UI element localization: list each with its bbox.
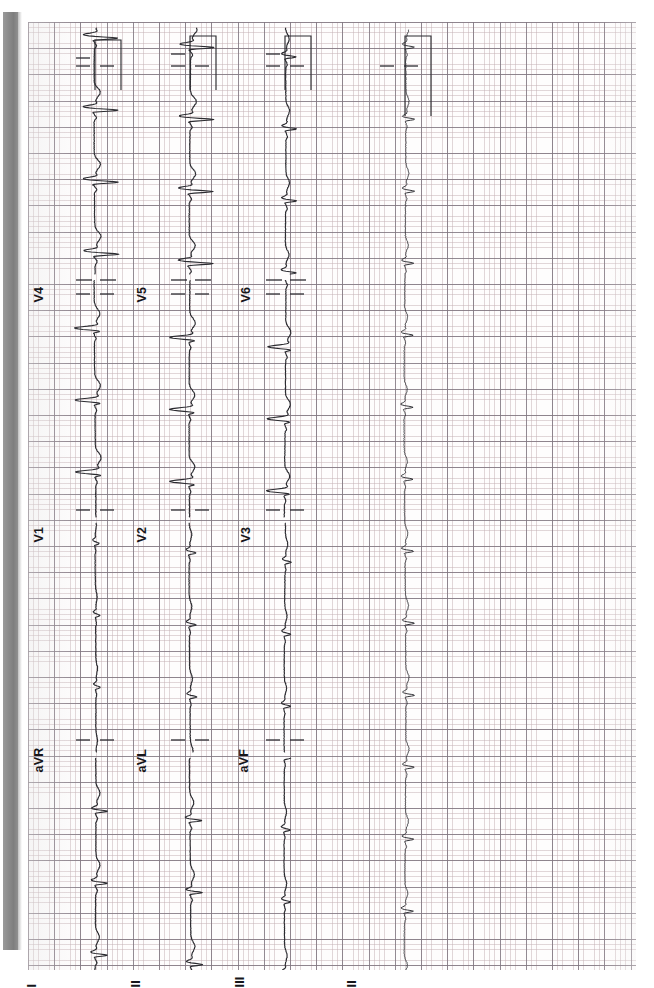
scanner-edge-shadow: [18, 12, 22, 950]
lead-label-I: I: [26, 984, 39, 988]
lead-label-aVL: aVL: [136, 749, 149, 773]
lead-label-II-rhythm: II: [346, 980, 359, 987]
lead-label-V5: V5: [136, 287, 149, 303]
lead-label-aVF: aVF: [238, 749, 251, 773]
lead-label-V6: V6: [240, 287, 253, 303]
lead-label-aVR: aVR: [33, 748, 46, 773]
lead-label-V4: V4: [33, 287, 46, 303]
lead-label-III: III: [234, 976, 247, 987]
lead-label-V3: V3: [240, 527, 253, 543]
ecg-trace-layer: [28, 22, 636, 970]
lead-label-V2: V2: [136, 527, 149, 543]
ecg-paper: [28, 22, 636, 970]
lead-label-V1: V1: [33, 527, 46, 543]
scanner-edge-band: [3, 12, 18, 950]
lead-label-II: II: [130, 980, 143, 987]
